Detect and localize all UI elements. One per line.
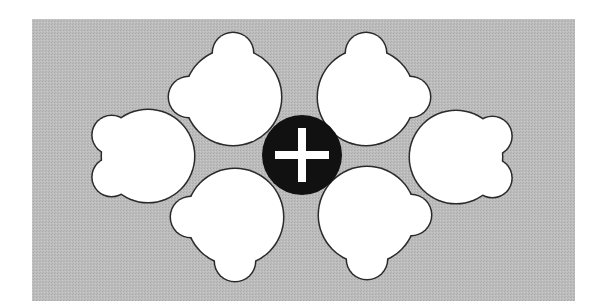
seat-ear <box>93 158 131 196</box>
plus-icon-vertical <box>298 128 306 182</box>
seat-ear <box>213 33 253 73</box>
seat-ear <box>93 116 131 154</box>
seating-diagram <box>0 0 599 307</box>
seat-ear <box>473 159 511 197</box>
seat-ear <box>171 197 211 237</box>
seat-ear <box>390 77 430 117</box>
add-button[interactable] <box>262 115 342 195</box>
seat-right[interactable] <box>409 110 513 205</box>
seat-left[interactable] <box>91 109 195 204</box>
seat-ear <box>215 241 255 281</box>
seat-ear <box>347 239 387 279</box>
seat-ear <box>346 33 386 73</box>
seat-ear <box>169 77 209 117</box>
seat-ear <box>391 195 431 235</box>
seat-ear <box>473 117 511 155</box>
